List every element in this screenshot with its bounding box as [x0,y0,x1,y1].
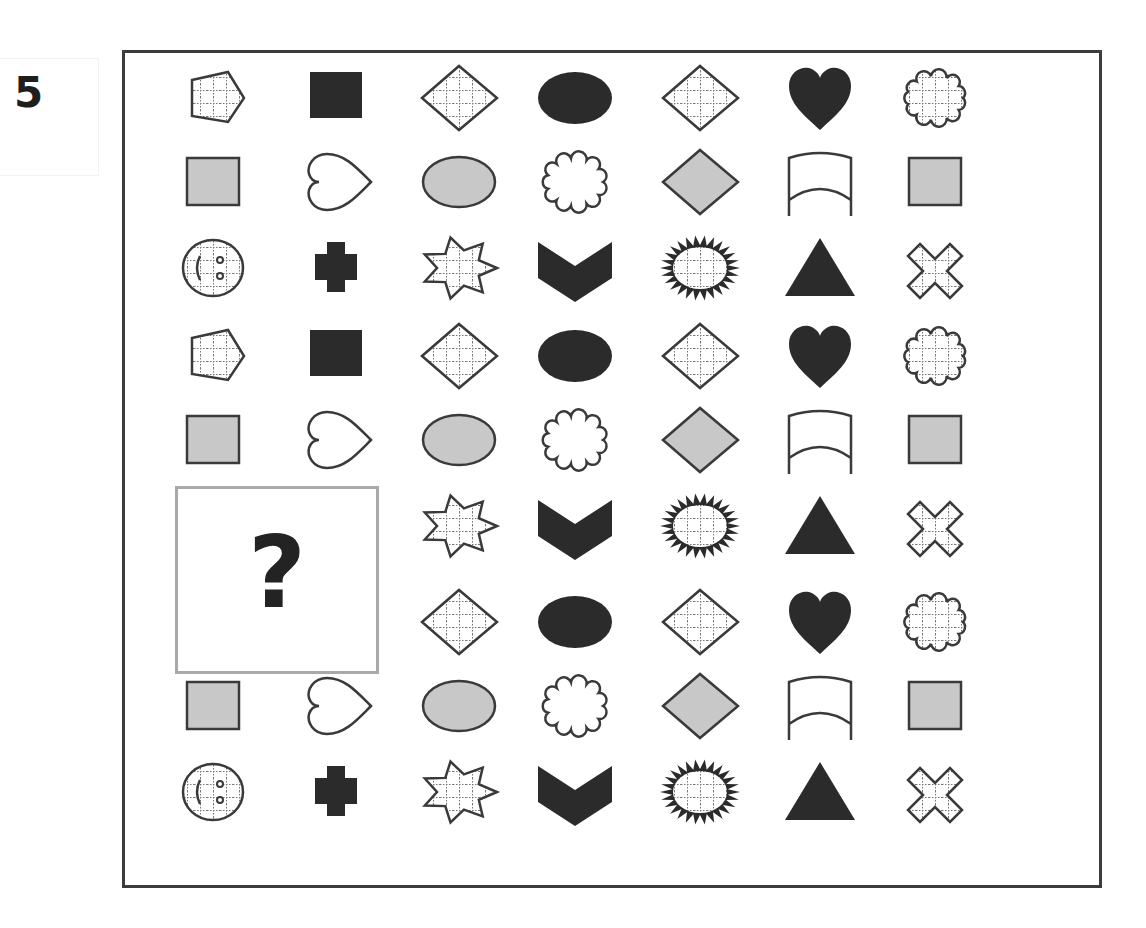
oval-dark-icon [530,316,620,396]
triangle-dark-icon [775,752,865,832]
smiley-grid-icon [168,228,258,308]
diamond-grid-icon [655,58,745,138]
triangle-dark-icon [775,486,865,566]
diamond-gray-icon [655,142,745,222]
heart-dark-icon [775,316,865,396]
wave-outline-icon [775,666,865,746]
sunburst-grid-icon [655,752,745,832]
heart-dark-icon [775,582,865,662]
x-grid-icon [890,752,980,832]
x-grid-icon [890,228,980,308]
square-dark-icon [291,316,381,396]
question-number: 5 [14,68,43,117]
oval-dark-icon [530,582,620,662]
star7-grid-icon [414,228,504,308]
cloud-outline-icon [530,666,620,746]
oval-gray-icon [414,400,504,480]
oval-gray-icon [414,666,504,746]
diamond-grid-icon [655,582,745,662]
oval-gray-icon [414,142,504,222]
square-dark-icon [291,58,381,138]
cloud-outline-icon [530,142,620,222]
star7-grid-icon [414,752,504,832]
square-gray-icon [168,142,258,222]
diamond-grid-icon [655,316,745,396]
sunburst-grid-icon [655,486,745,566]
chevron-dark-icon [530,486,620,566]
square-gray-icon [890,666,980,746]
chevron-dark-icon [530,228,620,308]
missing-piece-box[interactable]: ? [175,486,379,674]
diamond-gray-icon [655,400,745,480]
wave-outline-icon [775,142,865,222]
diamond-grid-icon [414,582,504,662]
chevron-dark-icon [530,752,620,832]
pentagon-grid-icon [168,316,258,396]
star7-grid-icon [414,486,504,566]
oval-dark-icon [530,58,620,138]
wave-outline-icon [775,400,865,480]
cross-dark-icon [291,228,381,308]
x-grid-icon [890,486,980,566]
pentagon-grid-icon [168,58,258,138]
diamond-grid-icon [414,316,504,396]
diamond-gray-icon [655,666,745,746]
sunburst-grid-icon [655,228,745,308]
cloud-grid-icon [890,316,980,396]
question-mark: ? [178,523,376,623]
cloud-outline-icon [530,400,620,480]
diamond-grid-icon [414,58,504,138]
square-gray-icon [168,666,258,746]
heart-outline-icon [291,666,381,746]
cross-dark-icon [291,752,381,832]
heart-outline-icon [291,142,381,222]
smiley-grid-icon [168,752,258,832]
square-gray-icon [890,142,980,222]
cloud-grid-icon [890,582,980,662]
heart-outline-icon [291,400,381,480]
heart-dark-icon [775,58,865,138]
square-gray-icon [168,400,258,480]
cloud-grid-icon [890,58,980,138]
triangle-dark-icon [775,228,865,308]
square-gray-icon [890,400,980,480]
